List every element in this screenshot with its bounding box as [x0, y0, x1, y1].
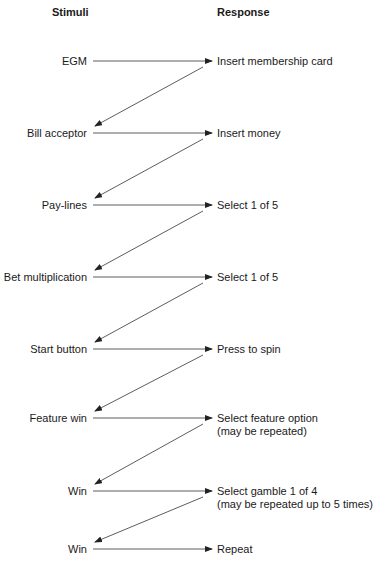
stimulus-pay-lines: Pay-lines [42, 199, 87, 212]
response-select-pay-lines: Select 1 of 5 [217, 199, 278, 212]
response-insert-money: Insert money [217, 127, 281, 140]
diag-6 [95, 424, 203, 484]
response-gamble-note: (may be repeated up to 5 times) [217, 498, 373, 511]
stimulus-bet-multiplication: Bet multiplication [4, 271, 87, 284]
diag-1 [95, 67, 203, 126]
diag-4 [95, 283, 203, 342]
response-feature-note: (may be repeated) [217, 425, 307, 438]
stimulus-win-1: Win [68, 485, 87, 498]
stimulus-win-2: Win [68, 543, 87, 556]
diag-7 [95, 497, 203, 542]
response-select-bet: Select 1 of 5 [217, 271, 278, 284]
stimulus-egm: EGM [62, 55, 87, 68]
response-press-to-spin: Press to spin [217, 343, 281, 356]
stimulus-start-button: Start button [30, 343, 87, 356]
response-insert-membership-card: Insert membership card [217, 55, 333, 68]
response-repeat: Repeat [217, 543, 252, 556]
diag-3 [95, 211, 203, 270]
stimulus-feature-win: Feature win [30, 412, 87, 425]
diag-5 [95, 355, 203, 411]
stimulus-bill-acceptor: Bill acceptor [27, 127, 87, 140]
response-select-gamble: Select gamble 1 of 4 [217, 485, 317, 498]
diag-2 [95, 139, 203, 198]
response-select-feature-option: Select feature option [217, 412, 318, 425]
